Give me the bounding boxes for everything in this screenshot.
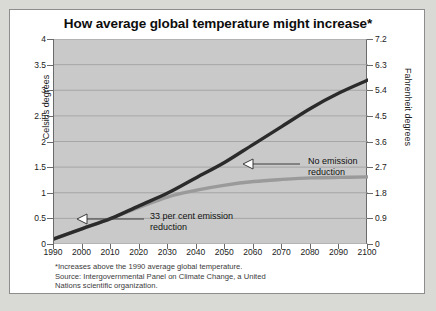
x-tick-mark bbox=[82, 244, 83, 249]
annotation-33-percent: 33 per cent emission reduction bbox=[150, 211, 233, 233]
footnote-line-1: *Increases above the 1990 average global… bbox=[55, 262, 415, 272]
y-tick-mark bbox=[47, 39, 53, 40]
x-tick-mark bbox=[253, 244, 254, 249]
footnote: *Increases above the 1990 average global… bbox=[55, 262, 415, 291]
y2-tick-mark bbox=[367, 142, 373, 143]
y2-tick-label: 3.6 bbox=[375, 138, 405, 146]
y-tick-mark bbox=[47, 218, 53, 219]
y-tick-label: 4 bbox=[16, 35, 46, 43]
arrow-left-icon bbox=[77, 214, 87, 224]
x-tick-label: 2100 bbox=[347, 248, 387, 256]
chart-card: How average global temperature might inc… bbox=[9, 9, 425, 294]
y2-tick-mark bbox=[367, 116, 373, 117]
y2-tick-mark bbox=[367, 90, 373, 91]
x-tick-mark bbox=[224, 244, 225, 249]
footnote-line-2: Source: Intergovernmental Panel on Clima… bbox=[55, 272, 415, 282]
y2-tick-label: 0 bbox=[375, 240, 405, 248]
y2-tick-label: 6.3 bbox=[375, 61, 405, 69]
x-tick-mark bbox=[310, 244, 311, 249]
y-tick-label: 0.5 bbox=[16, 214, 46, 222]
footnote-line-3: Nations scientific organization. bbox=[55, 281, 415, 291]
y-tick-label: 3 bbox=[16, 86, 46, 94]
y2-tick-label: 4.5 bbox=[375, 112, 405, 120]
x-tick-mark bbox=[110, 244, 111, 249]
x-tick-mark bbox=[139, 244, 140, 249]
y2-tick-label: 1.8 bbox=[375, 189, 405, 197]
annotation-no-emission: No emission reduction bbox=[308, 156, 358, 178]
x-tick-mark bbox=[367, 244, 368, 249]
y2-tick-mark bbox=[367, 39, 373, 40]
y-tick-label: 3.5 bbox=[16, 61, 46, 69]
y2-tick-label: 7.2 bbox=[375, 35, 405, 43]
y2-tick-mark bbox=[367, 218, 373, 219]
y-tick-label: 1.5 bbox=[16, 163, 46, 171]
y-tick-mark bbox=[47, 142, 53, 143]
y-tick-label: 1 bbox=[16, 189, 46, 197]
y-tick-mark bbox=[47, 116, 53, 117]
y-tick-mark bbox=[47, 193, 53, 194]
x-tick-mark bbox=[338, 244, 339, 249]
y2-tick-mark bbox=[367, 65, 373, 66]
x-tick-mark bbox=[196, 244, 197, 249]
y2-tick-mark bbox=[367, 167, 373, 168]
y2-tick-mark bbox=[367, 193, 373, 194]
y-tick-label: 2.5 bbox=[16, 112, 46, 120]
x-tick-mark bbox=[53, 244, 54, 249]
y2-tick-label: 5.4 bbox=[375, 86, 405, 94]
chart-title: How average global temperature might inc… bbox=[10, 16, 426, 31]
y-tick-label: 2 bbox=[16, 138, 46, 146]
y2-tick-label: 2.7 bbox=[375, 163, 405, 171]
y-tick-mark bbox=[47, 90, 53, 91]
y-tick-mark bbox=[47, 65, 53, 66]
x-tick-mark bbox=[281, 244, 282, 249]
y-tick-label: 0 bbox=[16, 240, 46, 248]
y-tick-mark bbox=[47, 167, 53, 168]
y2-tick-label: 0.9 bbox=[375, 214, 405, 222]
x-tick-mark bbox=[167, 244, 168, 249]
